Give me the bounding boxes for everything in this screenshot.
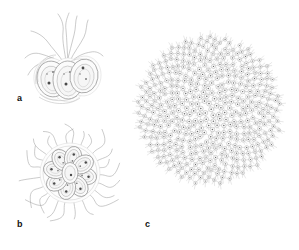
panel-a-cells	[30, 54, 104, 104]
colony-sphere	[132, 31, 285, 189]
panel-label-b: b	[17, 220, 23, 229]
panel-label-c: c	[145, 220, 150, 229]
cell-body	[62, 163, 78, 184]
panel-b-cells	[40, 143, 100, 203]
panel-label-a: a	[17, 94, 22, 103]
flagellum	[91, 129, 105, 156]
panel-a	[22, 12, 112, 104]
figure-container: a b c	[0, 0, 299, 250]
panel-c	[133, 30, 285, 194]
panel-b	[20, 126, 120, 222]
flagellum	[86, 194, 118, 207]
